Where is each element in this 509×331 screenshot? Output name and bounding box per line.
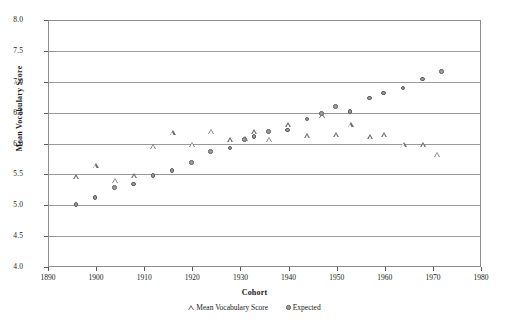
y-tick-mark — [44, 82, 48, 83]
data-point — [189, 142, 195, 147]
x-tick-mark — [96, 267, 97, 271]
x-tick-label: 1980 — [458, 273, 504, 282]
x-tick-mark — [240, 267, 241, 271]
y-tick-label: 7.0 — [0, 78, 23, 86]
y-tick-label: 6.0 — [0, 140, 23, 148]
data-point — [252, 134, 257, 139]
filled-circle-marker-icon — [286, 305, 291, 310]
data-point — [93, 195, 98, 200]
data-point — [401, 142, 407, 147]
data-point — [73, 174, 79, 179]
y-tick-mark — [44, 236, 48, 237]
y-tick-label: 7.5 — [0, 47, 23, 55]
data-point — [74, 202, 79, 207]
data-point — [170, 168, 175, 173]
data-point — [434, 152, 440, 157]
legend-item-mean-vocabulary-score: Mean Vocabulary Score — [188, 303, 268, 312]
legend-label: Expected — [293, 303, 321, 312]
data-point — [319, 111, 324, 116]
y-tick-label: 5.0 — [0, 201, 23, 209]
chart-legend: Mean Vocabulary Score Expected — [0, 303, 509, 312]
data-point — [131, 173, 137, 178]
data-point — [333, 132, 339, 137]
data-point — [266, 137, 272, 142]
data-point — [367, 96, 372, 101]
gridline — [49, 144, 480, 145]
x-tick-label: 1900 — [73, 273, 119, 282]
data-point — [420, 142, 426, 147]
x-tick-mark — [289, 267, 290, 271]
open-triangle-marker-icon — [188, 305, 194, 310]
data-point — [285, 122, 291, 127]
x-tick-mark — [144, 267, 145, 271]
y-tick-label: 5.5 — [0, 170, 23, 178]
gridline — [49, 205, 480, 206]
y-tick-label: 6.5 — [0, 109, 23, 117]
gridline — [49, 113, 480, 114]
x-tick-mark — [192, 267, 193, 271]
data-point — [208, 149, 213, 154]
vocabulary-score-scatter-chart: Mean Vocabulary Score 4.04.55.05.56.06.5… — [0, 0, 509, 331]
data-point — [266, 129, 271, 134]
y-tick-label: 4.0 — [0, 263, 23, 271]
x-tick-label: 1910 — [121, 273, 167, 282]
data-point — [93, 163, 99, 168]
data-point — [439, 69, 444, 74]
data-point — [242, 137, 247, 142]
data-point — [170, 130, 176, 135]
legend-label: Mean Vocabulary Score — [196, 303, 268, 312]
x-tick-mark — [385, 267, 386, 271]
x-tick-label: 1970 — [410, 273, 456, 282]
data-point — [189, 160, 194, 165]
gridline — [49, 82, 480, 83]
data-point — [333, 104, 338, 109]
x-tick-label: 1920 — [169, 273, 215, 282]
data-point — [227, 137, 233, 142]
y-tick-mark — [44, 51, 48, 52]
data-point — [131, 182, 136, 187]
y-tick-mark — [44, 205, 48, 206]
y-tick-mark — [44, 144, 48, 145]
gridline — [49, 174, 480, 175]
data-point — [348, 122, 354, 127]
y-tick-mark — [44, 20, 48, 21]
y-tick-mark — [44, 113, 48, 114]
data-point — [208, 129, 214, 134]
data-point — [381, 132, 387, 137]
data-point — [151, 173, 156, 178]
x-axis-title: Cohort — [0, 288, 509, 297]
x-tick-mark — [48, 267, 49, 271]
data-point — [112, 185, 117, 190]
gridline — [49, 236, 480, 237]
gridline — [49, 51, 480, 52]
data-point — [420, 77, 425, 82]
data-point — [150, 144, 156, 149]
x-tick-label: 1960 — [362, 273, 408, 282]
x-tick-mark — [337, 267, 338, 271]
x-tick-mark — [481, 267, 482, 271]
legend-item-expected: Expected — [286, 303, 321, 312]
y-tick-mark — [44, 174, 48, 175]
x-tick-label: 1950 — [314, 273, 360, 282]
x-tick-mark — [433, 267, 434, 271]
x-tick-label: 1890 — [25, 273, 71, 282]
x-tick-label: 1940 — [266, 273, 312, 282]
y-tick-label: 8.0 — [0, 16, 23, 24]
y-tick-label: 4.5 — [0, 232, 23, 240]
x-tick-label: 1930 — [217, 273, 263, 282]
data-point — [367, 134, 373, 139]
data-point — [304, 133, 310, 138]
data-point — [112, 178, 118, 183]
plot-area — [48, 20, 481, 267]
